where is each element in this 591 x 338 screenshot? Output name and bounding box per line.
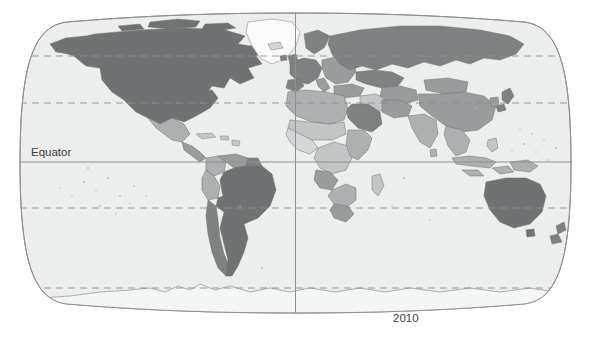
world-map-graphic: Equator 2010 bbox=[0, 0, 591, 338]
year-label: 2010 bbox=[393, 312, 419, 324]
region-korea bbox=[490, 97, 499, 107]
region-sri-lanka bbox=[430, 149, 437, 157]
world-map-figure: Equator 2010 bbox=[0, 0, 591, 338]
region-tasmania bbox=[526, 229, 535, 237]
equator-label: Equator bbox=[31, 146, 71, 158]
